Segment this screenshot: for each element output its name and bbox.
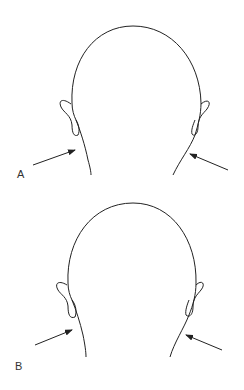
diagram-canvas — [0, 0, 244, 390]
ear-right-b — [186, 282, 204, 316]
ear-left-a — [60, 100, 79, 135]
arrow-right-b — [186, 335, 222, 350]
head-b — [57, 203, 204, 357]
head-a — [60, 26, 209, 175]
figure-label-a: A — [17, 168, 24, 180]
arrow-left-b — [35, 330, 72, 345]
arrow-left-a — [33, 150, 75, 165]
arrow-right-a — [190, 154, 228, 170]
ear-left-b — [57, 283, 76, 318]
figure-label-b: B — [15, 360, 22, 372]
